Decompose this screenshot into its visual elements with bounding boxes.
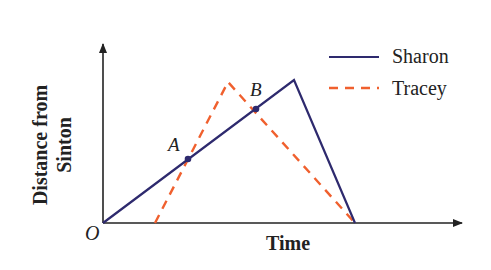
origin-label: O [85, 222, 99, 244]
legend: Sharon Tracey [329, 45, 449, 100]
y-axis-label-line1: Distance from [29, 85, 51, 205]
y-axis-label: Distance from Sinton [29, 85, 75, 205]
legend-item-tracey: Tracey [329, 77, 447, 100]
legend-label-sharon: Sharon [392, 45, 449, 67]
y-axis-label-line2: Sinton [53, 117, 75, 173]
point-a-label: A [166, 134, 180, 155]
point-a-marker [185, 156, 192, 163]
distance-time-chart: A B O Time Distance from Sinton Sharon T… [0, 0, 491, 270]
point-b-marker [253, 106, 260, 113]
legend-item-sharon: Sharon [329, 45, 449, 67]
series-sharon-line [103, 80, 355, 223]
legend-label-tracey: Tracey [392, 77, 447, 100]
point-b-label: B [250, 79, 262, 100]
x-axis-label: Time [266, 232, 310, 254]
